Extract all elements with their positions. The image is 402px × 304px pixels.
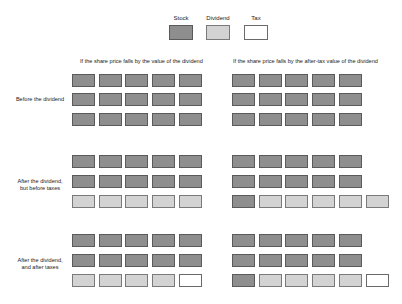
stock-block: [312, 74, 335, 87]
stock-block: [312, 155, 335, 168]
stock-block: [152, 93, 175, 106]
stock-block: [72, 74, 95, 87]
stock-block: [179, 74, 202, 87]
stock-block: [152, 113, 175, 126]
stock-block: [339, 93, 362, 106]
dividend-block: [179, 195, 202, 208]
stock-block: [99, 155, 122, 168]
stock-block: [125, 93, 148, 106]
stock-block: [312, 234, 335, 247]
dividend-block: [152, 195, 175, 208]
row-label-line: but before taxes: [8, 185, 72, 192]
row-label-line: and after taxes: [8, 264, 72, 271]
stock-block: [125, 234, 148, 247]
tax-block: [366, 274, 389, 287]
dividend-block: [72, 195, 95, 208]
stock-block: [99, 234, 122, 247]
stock-block: [285, 155, 308, 168]
dividend-block: [339, 274, 362, 287]
stock-block: [99, 93, 122, 106]
stock-block: [72, 155, 95, 168]
stock-block: [259, 113, 282, 126]
stock-block: [259, 175, 282, 188]
stock-block: [232, 274, 255, 287]
dividend-block: [259, 195, 282, 208]
legend-label-stock: Stock: [161, 15, 201, 21]
stock-block: [312, 175, 335, 188]
stock-block: [232, 155, 255, 168]
dividend-block: [125, 274, 148, 287]
stock-block: [232, 254, 255, 267]
stock-block: [285, 74, 308, 87]
dividend-block: [285, 274, 308, 287]
dividend-block: [72, 274, 95, 287]
stock-block: [339, 254, 362, 267]
stock-block: [179, 254, 202, 267]
stock-block: [259, 155, 282, 168]
stock-block: [312, 113, 335, 126]
stock-block: [232, 175, 255, 188]
stock-block: [152, 234, 175, 247]
dividend-block: [312, 274, 335, 287]
stock-block: [339, 74, 362, 87]
stock-block: [285, 113, 308, 126]
dividend-block: [259, 274, 282, 287]
row-label-after-dividend-after-taxes: After the dividend, and after taxes: [8, 257, 72, 271]
stock-block: [72, 234, 95, 247]
stock-block: [152, 155, 175, 168]
legend-swatch-tax: [244, 25, 268, 40]
stock-block: [72, 175, 95, 188]
stock-block: [152, 175, 175, 188]
legend-swatch-dividend: [206, 25, 230, 40]
stock-block: [99, 74, 122, 87]
stock-block: [259, 74, 282, 87]
stock-block: [285, 254, 308, 267]
dividend-block: [99, 195, 122, 208]
stock-block: [232, 93, 255, 106]
row-label-line: After the dividend,: [8, 178, 72, 185]
legend-label-dividend: Dividend: [198, 15, 238, 21]
column-title-right: If the share price falls by the after-ta…: [233, 58, 378, 64]
stock-block: [179, 113, 202, 126]
stock-block: [339, 175, 362, 188]
stock-block: [232, 234, 255, 247]
tax-block: [179, 274, 202, 287]
row-label-before-dividend: Before the dividend: [8, 96, 72, 103]
dividend-block: [366, 195, 389, 208]
stock-block: [232, 113, 255, 126]
stock-block: [125, 113, 148, 126]
dividend-block: [152, 274, 175, 287]
stock-block: [179, 155, 202, 168]
stock-block: [152, 74, 175, 87]
stock-block: [312, 93, 335, 106]
legend-label-tax: Tax: [236, 15, 276, 21]
stock-block: [125, 254, 148, 267]
legend-swatch-stock: [169, 25, 193, 40]
column-title-left: If the share price falls by the value of…: [80, 58, 203, 64]
stock-block: [179, 93, 202, 106]
stock-block: [125, 155, 148, 168]
stock-block: [125, 175, 148, 188]
stock-block: [72, 254, 95, 267]
stock-block: [99, 113, 122, 126]
stock-block: [125, 74, 148, 87]
stock-block: [339, 234, 362, 247]
stock-block: [339, 113, 362, 126]
stock-block: [72, 93, 95, 106]
stock-block: [179, 175, 202, 188]
stock-block: [312, 254, 335, 267]
stock-block: [152, 254, 175, 267]
stock-block: [72, 113, 95, 126]
stock-block: [99, 175, 122, 188]
stock-block: [259, 234, 282, 247]
dividend-block: [285, 195, 308, 208]
stock-block: [285, 234, 308, 247]
dividend-block: [312, 195, 335, 208]
dividend-block: [339, 195, 362, 208]
stock-block: [285, 93, 308, 106]
dividend-block: [125, 195, 148, 208]
row-label-line: After the dividend,: [8, 257, 72, 264]
stock-block: [259, 254, 282, 267]
stock-block: [99, 254, 122, 267]
stock-block: [232, 195, 255, 208]
